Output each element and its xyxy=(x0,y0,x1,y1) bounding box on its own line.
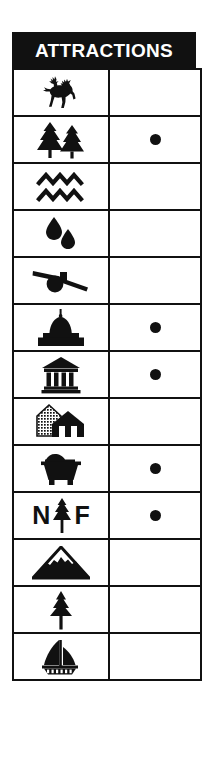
symbol-cell: N F xyxy=(13,492,109,539)
marker-cell xyxy=(109,633,201,680)
marker-dot xyxy=(150,369,161,380)
symbol-cell xyxy=(13,351,109,398)
attractions-legend-panel: ATTRACTIONS xyxy=(12,32,196,681)
marker-dot xyxy=(150,134,161,145)
marker-cell xyxy=(109,398,201,445)
table-row xyxy=(13,351,201,398)
table-row xyxy=(13,398,201,445)
national-forest-right-letter: F xyxy=(74,503,89,528)
marker-cell xyxy=(109,257,201,304)
legend-table: N F xyxy=(12,68,202,681)
mine-cart-icon xyxy=(14,447,108,490)
table-row xyxy=(13,633,201,680)
symbol-cell xyxy=(13,539,109,586)
symbol-cell xyxy=(13,69,109,116)
symbol-cell xyxy=(13,116,109,163)
table-row xyxy=(13,116,201,163)
water-waves-icon xyxy=(14,165,108,208)
symbol-cell xyxy=(13,398,109,445)
capitol-dome-icon xyxy=(14,306,108,349)
marker-cell xyxy=(109,210,201,257)
marker-cell xyxy=(109,586,201,633)
national-forest-left-letter: N xyxy=(32,503,50,528)
table-row xyxy=(13,163,201,210)
table-row xyxy=(13,69,201,116)
table-row xyxy=(13,539,201,586)
sailboat-icon xyxy=(14,635,108,678)
marker-cell xyxy=(109,539,201,586)
table-row xyxy=(13,257,201,304)
marker-cell xyxy=(109,304,201,351)
museum-icon xyxy=(14,353,108,396)
table-row xyxy=(13,445,201,492)
symbol-cell xyxy=(13,304,109,351)
table-row xyxy=(13,586,201,633)
marker-dot xyxy=(150,463,161,474)
pine-trees-icon xyxy=(14,118,108,161)
table-row: N F xyxy=(13,492,201,539)
symbol-cell xyxy=(13,586,109,633)
deer-icon xyxy=(14,71,108,114)
mountain-icon xyxy=(14,541,108,584)
marker-cell xyxy=(109,163,201,210)
symbol-cell xyxy=(13,445,109,492)
marker-cell xyxy=(109,116,201,163)
marker-cell xyxy=(109,69,201,116)
symbol-cell xyxy=(13,163,109,210)
marker-cell xyxy=(109,351,201,398)
single-tree-icon xyxy=(14,588,108,631)
marker-cell xyxy=(109,492,201,539)
historic-houses-icon xyxy=(14,400,108,443)
page-title: ATTRACTIONS xyxy=(35,41,173,60)
table-row xyxy=(13,210,201,257)
cannon-icon xyxy=(14,259,108,302)
symbol-cell xyxy=(13,633,109,680)
table-row xyxy=(13,304,201,351)
legend-table-body: N F xyxy=(13,69,201,680)
symbol-cell xyxy=(13,210,109,257)
national-forest-tree-icon xyxy=(51,497,73,535)
national-forest-icon: N F xyxy=(14,494,108,537)
marker-dot xyxy=(150,322,161,333)
water-drops-icon xyxy=(14,212,108,255)
symbol-cell xyxy=(13,257,109,304)
marker-cell xyxy=(109,445,201,492)
legend-header: ATTRACTIONS xyxy=(12,32,196,68)
marker-dot xyxy=(150,510,161,521)
